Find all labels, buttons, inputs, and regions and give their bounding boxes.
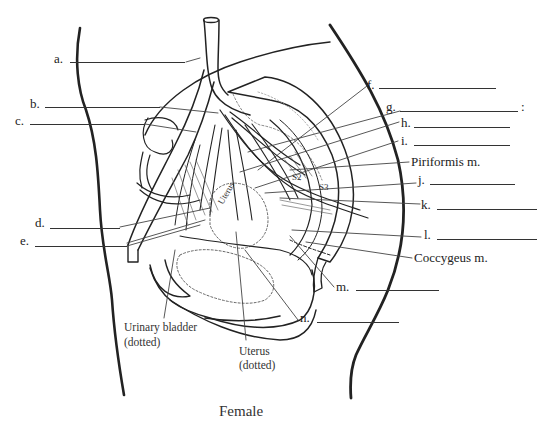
answer-blank-j[interactable] <box>430 184 515 185</box>
label-a: a. <box>54 52 63 66</box>
caption-urinary-bladder-dotted: (dotted) <box>124 335 160 349</box>
label-g: g. <box>386 100 396 114</box>
caption-uterus: Uterus <box>239 344 270 358</box>
sacral-s2-marker: S2 <box>292 170 302 184</box>
answer-blank-e[interactable] <box>35 246 127 247</box>
answer-blank-i[interactable] <box>414 145 510 146</box>
answer-blank-c[interactable] <box>30 124 145 125</box>
label-j: j. <box>418 173 425 187</box>
answer-blank-h[interactable] <box>414 127 510 128</box>
pelvic-anatomy-diagram: S2 S3 Uterus a. b. c. d. e. f. g. : h. i… <box>0 0 549 431</box>
label-k: k. <box>421 198 431 212</box>
caption-urinary-bladder: Urinary bladder <box>124 320 197 334</box>
label-piriformis: Piriformis m. <box>411 155 480 169</box>
label-coccygeus: Coccygeus m. <box>414 251 488 265</box>
label-d: d. <box>35 216 45 230</box>
answer-blank-a[interactable] <box>70 62 185 63</box>
caption-uterus-dotted: (dotted) <box>239 358 275 372</box>
answer-blank-l[interactable] <box>437 239 537 240</box>
label-g-colon: : <box>521 100 525 114</box>
body-outline-left <box>77 28 124 395</box>
answer-blank-m[interactable] <box>356 290 439 291</box>
label-m: m. <box>336 280 349 294</box>
answer-blank-n[interactable] <box>317 322 399 323</box>
label-b: b. <box>30 97 40 111</box>
answer-blank-d[interactable] <box>50 228 120 229</box>
label-e: e. <box>20 234 29 248</box>
label-f: f. <box>367 78 375 92</box>
answer-blank-g[interactable] <box>400 111 518 112</box>
label-n: n. <box>300 311 310 325</box>
answer-blank-b[interactable] <box>45 107 160 108</box>
label-l: l. <box>424 228 431 242</box>
label-i: i. <box>401 134 408 148</box>
answer-blank-k[interactable] <box>437 209 537 210</box>
label-c: c. <box>15 114 24 128</box>
answer-blank-f[interactable] <box>379 88 496 89</box>
label-h: h. <box>401 116 411 130</box>
sacral-s3-marker: S3 <box>319 180 329 194</box>
aorta <box>204 20 250 115</box>
bladder-outline <box>177 250 274 304</box>
diagram-title: Female <box>219 403 263 420</box>
